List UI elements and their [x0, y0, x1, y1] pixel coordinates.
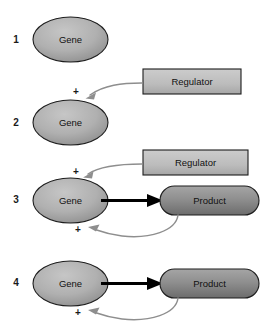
gene-label: Gene — [59, 195, 82, 206]
product-label: Product — [193, 195, 226, 206]
gene-label: Gene — [59, 117, 82, 128]
regulator-label: Regulator — [175, 157, 216, 168]
product-label: Product — [193, 278, 226, 289]
gene-label: Gene — [59, 278, 82, 289]
panel-number-1: 1 — [13, 34, 19, 45]
plus-sign-feedback: + — [75, 307, 81, 318]
panel-number-3: 3 — [13, 194, 19, 205]
plus-sign-regulator: + — [73, 86, 79, 97]
plus-sign-regulator: + — [73, 166, 79, 177]
gene-regulation-diagram: 1 Gene 2 Regulator + Gene 3 Regula — [0, 0, 261, 330]
panel-number-4: 4 — [13, 277, 19, 288]
plus-sign-feedback: + — [75, 224, 81, 235]
figure-canvas: 1 Gene 2 Regulator + Gene 3 Regula — [0, 0, 261, 330]
panel-number-2: 2 — [13, 117, 19, 128]
gene-label: Gene — [59, 34, 82, 45]
regulator-label: Regulator — [171, 76, 212, 87]
